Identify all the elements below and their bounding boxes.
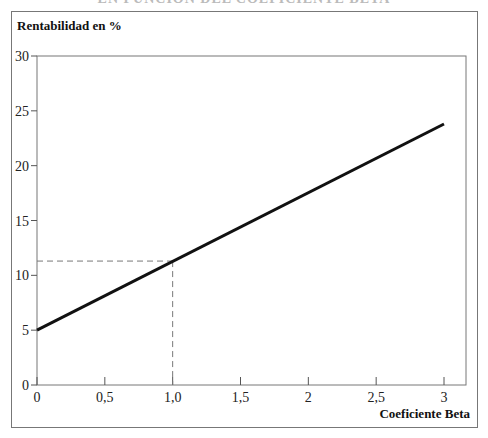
x-tick-label: 1,5 [232,390,250,405]
y-axis-ticks: 051015202530 [15,49,37,393]
y-tick-label: 0 [22,378,29,393]
y-tick-label: 5 [22,323,29,338]
series-line [37,124,444,330]
x-tick-label: 2,5 [367,390,385,405]
y-tick-label: 25 [15,104,29,119]
y-tick-label: 30 [15,49,29,64]
x-tick-label: 0,5 [96,390,114,405]
x-tick-label: 1,0 [164,390,182,405]
x-tick-label: 2 [305,390,312,405]
chart-plot: 051015202530 00,51,01,522,53 [0,0,488,438]
y-tick-label: 10 [15,268,29,283]
dashed-guides [37,261,173,385]
x-tick-label: 0 [34,390,41,405]
x-axis-ticks: 00,51,01,522,53 [34,377,448,405]
y-tick-label: 20 [15,159,29,174]
y-tick-label: 15 [15,214,29,229]
data-series [37,124,444,330]
x-tick-label: 3 [441,390,448,405]
